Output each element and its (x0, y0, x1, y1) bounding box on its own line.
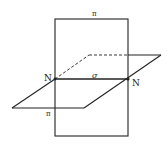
label-pi-top: π (92, 10, 97, 18)
label-n-left: N (44, 73, 52, 83)
point-n-left (54, 78, 57, 81)
label-pi-bottom: π (46, 110, 51, 118)
right-edge (84, 55, 161, 108)
planes-diagram: π σ N N π (0, 0, 168, 148)
label-sigma: σ (92, 71, 98, 80)
hidden-edge-left (55, 55, 89, 79)
left-edge (12, 79, 55, 108)
point-n-right (126, 77, 129, 80)
label-n-right: N (132, 78, 140, 88)
